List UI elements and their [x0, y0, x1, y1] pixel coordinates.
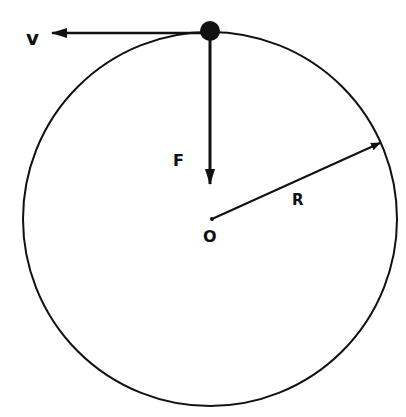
- center-label: O: [203, 227, 217, 246]
- circular-motion-diagram: v F R O: [0, 0, 406, 417]
- velocity-label: v: [26, 26, 39, 50]
- force-label: F: [173, 151, 184, 170]
- moving-body: [200, 21, 220, 41]
- radius-label: R: [292, 191, 304, 209]
- center-point: [210, 217, 214, 221]
